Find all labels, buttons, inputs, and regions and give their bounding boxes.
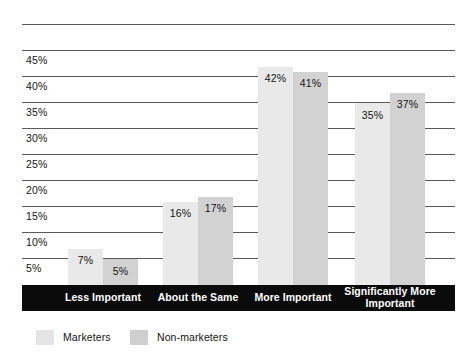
y-axis-tick-label: 15% bbox=[26, 211, 47, 222]
y-axis-tick-labels: 45%40%35%30%25%20%15%10%5% bbox=[26, 25, 66, 285]
y-axis-tick-label: 20% bbox=[26, 185, 47, 196]
y-axis-tick-label: 5% bbox=[26, 263, 41, 274]
bar-chart: 7%5%16%17%42%41%35%37% 45%40%35%30%25%20… bbox=[0, 0, 470, 362]
bar-value-label: 35% bbox=[355, 110, 390, 121]
legend-item[interactable]: Marketers bbox=[36, 328, 111, 346]
bar bbox=[355, 103, 390, 285]
y-axis-tick-label: 10% bbox=[26, 237, 47, 248]
legend-label: Non-marketers bbox=[157, 331, 228, 343]
y-axis-tick-label: 45% bbox=[26, 55, 47, 66]
bar-value-label: 7% bbox=[68, 255, 103, 266]
bar bbox=[258, 67, 293, 285]
bar bbox=[390, 93, 425, 285]
bar bbox=[293, 72, 328, 285]
plot-area: 7%5%16%17%42%41%35%37% bbox=[22, 25, 455, 285]
y-axis-tick-label: 40% bbox=[26, 81, 47, 92]
bar-value-label: 42% bbox=[258, 73, 293, 84]
bar-series-group: 7%5%16%17%42%41%35%37% bbox=[22, 25, 455, 285]
bar-value-label: 41% bbox=[293, 78, 328, 89]
bar-value-label: 37% bbox=[390, 99, 425, 110]
y-axis-tick-label: 25% bbox=[26, 159, 47, 170]
bar-value-label: 5% bbox=[103, 266, 138, 277]
legend-swatch-icon bbox=[36, 330, 54, 345]
y-axis-tick-label: 35% bbox=[26, 107, 47, 118]
legend-label: Marketers bbox=[63, 331, 111, 343]
legend-swatch-icon bbox=[130, 330, 148, 345]
y-axis-tick-label: 30% bbox=[26, 133, 47, 144]
category-axis-band: Less ImportantAbout the SameMore Importa… bbox=[22, 285, 455, 311]
bar-value-label: 17% bbox=[198, 203, 233, 214]
category-label: Significantly More Important bbox=[333, 285, 447, 311]
bar-value-label: 16% bbox=[163, 208, 198, 219]
legend-item[interactable]: Non-marketers bbox=[130, 328, 228, 346]
